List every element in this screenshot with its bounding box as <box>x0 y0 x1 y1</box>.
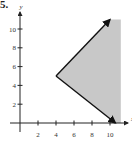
x-tick-label: 6 <box>72 131 76 139</box>
y-tick-label: 4 <box>13 82 17 90</box>
y-tick-label: 10 <box>9 26 17 34</box>
plot-area: 246810246810yx <box>0 0 132 142</box>
problem-number: 5. <box>0 0 8 10</box>
x-axis-label: x <box>130 115 132 123</box>
y-tick-label: 6 <box>13 63 17 71</box>
shaded-region <box>56 20 121 123</box>
x-tick-label: 2 <box>36 131 40 139</box>
graph-figure: 5. 246810246810yx <box>0 0 132 142</box>
x-tick-label: 10 <box>107 131 115 139</box>
y-axis-label: y <box>18 3 23 11</box>
y-tick-label: 2 <box>13 101 17 109</box>
x-tick-label: 8 <box>90 131 94 139</box>
x-tick-label: 4 <box>54 131 58 139</box>
y-tick-label: 8 <box>13 44 17 52</box>
